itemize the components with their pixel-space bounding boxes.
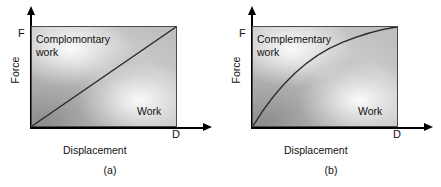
work-label-a: Work: [137, 105, 161, 117]
x-axis-title-a: Displacement: [63, 144, 127, 156]
work-label-b: Work: [358, 105, 382, 117]
panel-caption-b: (b): [221, 164, 441, 176]
panel-a: F D Force Displacement Complomontary wor…: [0, 0, 220, 187]
complementary-work-label-a: Complomontary work: [36, 33, 110, 58]
complementary-work-line1-a: Complomontary: [36, 33, 110, 45]
y-axis-max-label-a: F: [18, 27, 25, 39]
complementary-work-line2-a: work: [36, 46, 58, 58]
x-axis-max-label-b: D: [393, 128, 401, 140]
y-axis-max-label-b: F: [239, 27, 246, 39]
panel-b: F D Force Displacement Complementary wor…: [221, 0, 441, 187]
panel-caption-a: (a): [0, 164, 220, 176]
y-axis-arrow-icon-a: [27, 6, 35, 15]
complementary-work-line2-b: work: [257, 46, 279, 58]
complementary-work-line1-b: Complementary: [257, 33, 331, 45]
x-axis-max-label-a: D: [172, 128, 180, 140]
y-axis-title-a: Force: [9, 47, 21, 93]
x-axis-arrow-icon-a: [203, 123, 212, 131]
figure-force-displacement: F D Force Displacement Complomontary wor…: [0, 0, 441, 187]
x-axis-arrow-icon-b: [424, 123, 433, 131]
y-axis-arrow-icon-b: [248, 6, 256, 15]
y-axis-title-b: Force: [230, 47, 242, 93]
x-axis-title-b: Displacement: [284, 144, 348, 156]
complementary-work-label-b: Complementary work: [257, 33, 331, 58]
